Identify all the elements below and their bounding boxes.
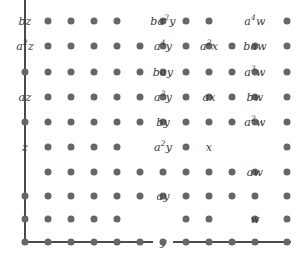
lattice-dot bbox=[91, 193, 98, 200]
lattice-dot bbox=[137, 119, 144, 126]
lattice-dot bbox=[114, 239, 121, 246]
lattice-dot bbox=[91, 239, 98, 246]
lattice-dot bbox=[45, 94, 52, 101]
lattice-point-label: baw bbox=[243, 41, 267, 52]
lattice-dot bbox=[22, 69, 29, 76]
lattice-dot bbox=[114, 94, 121, 101]
lattice-dot bbox=[22, 216, 29, 223]
lattice-point-label: bz bbox=[18, 16, 31, 27]
lattice-dot bbox=[68, 18, 75, 25]
lattice-dot bbox=[183, 216, 190, 223]
lattice-dot bbox=[183, 94, 190, 101]
lattice-dot bbox=[183, 169, 190, 176]
lattice-dot bbox=[22, 193, 29, 200]
lattice-dot bbox=[229, 43, 236, 50]
lattice-point-label: az bbox=[19, 92, 32, 103]
lattice-point-label: a3w bbox=[244, 67, 265, 78]
lattice-dot bbox=[137, 193, 144, 200]
lattice-dot bbox=[68, 216, 75, 223]
lattice-dot bbox=[45, 69, 52, 76]
lattice-dot bbox=[114, 69, 121, 76]
lattice-dot bbox=[91, 18, 98, 25]
lattice-dot bbox=[45, 216, 52, 223]
lattice-dot bbox=[91, 94, 98, 101]
lattice-dot bbox=[252, 193, 259, 200]
lattice-dot bbox=[206, 193, 213, 200]
lattice-dot bbox=[284, 43, 291, 50]
lattice-dot bbox=[284, 69, 291, 76]
lattice-point-label: a2w bbox=[244, 117, 265, 128]
lattice-dot bbox=[137, 239, 144, 246]
lattice-dot bbox=[229, 94, 236, 101]
lattice-dot bbox=[114, 18, 121, 25]
lattice-dot bbox=[68, 69, 75, 76]
lattice-point-label: z bbox=[22, 142, 28, 153]
lattice-dot bbox=[284, 239, 291, 246]
lattice-point-label: ay bbox=[156, 191, 169, 202]
lattice-dot bbox=[284, 119, 291, 126]
lattice-dot bbox=[229, 69, 236, 76]
lattice-point-label: aw bbox=[247, 167, 263, 178]
lattice-point-label: a2x bbox=[200, 41, 218, 52]
lattice-dot bbox=[183, 18, 190, 25]
lattice-dot bbox=[183, 144, 190, 151]
lattice-dot bbox=[229, 119, 236, 126]
lattice-dot bbox=[91, 144, 98, 151]
lattice-dot bbox=[114, 144, 121, 151]
lattice-dot bbox=[229, 239, 236, 246]
lattice-dot bbox=[183, 69, 190, 76]
lattice-dot bbox=[91, 69, 98, 76]
lattice-dot bbox=[137, 94, 144, 101]
lattice-point-label: ba2y bbox=[150, 16, 175, 27]
lattice-dot bbox=[91, 216, 98, 223]
lattice-dot bbox=[114, 193, 121, 200]
lattice-dot bbox=[45, 193, 52, 200]
lattice-point-label: w bbox=[250, 214, 260, 225]
lattice-dot bbox=[206, 169, 213, 176]
lattice-point-label: a2z bbox=[16, 41, 34, 52]
lattice-dot bbox=[45, 239, 52, 246]
lattice-dot bbox=[68, 239, 75, 246]
lattice-dot bbox=[252, 239, 259, 246]
lattice-dot bbox=[284, 144, 291, 151]
lattice-dot bbox=[45, 119, 52, 126]
lattice-dot bbox=[160, 239, 167, 246]
lattice-dot bbox=[91, 169, 98, 176]
lattice-dot bbox=[22, 119, 29, 126]
lattice-dot bbox=[206, 69, 213, 76]
lattice-point-label: ax bbox=[202, 92, 215, 103]
lattice-dot bbox=[206, 216, 213, 223]
lattice-point-label: a3y bbox=[154, 92, 172, 103]
lattice-dot bbox=[114, 43, 121, 50]
lattice-dot bbox=[284, 18, 291, 25]
lattice-dot bbox=[183, 119, 190, 126]
lattice-dot bbox=[284, 216, 291, 223]
lattice-dot bbox=[137, 43, 144, 50]
lattice-dot bbox=[183, 43, 190, 50]
lattice-point-label: a4y bbox=[154, 41, 172, 52]
lattice-point-label: by bbox=[156, 117, 170, 128]
lattice-dot bbox=[45, 144, 52, 151]
lattice-dot bbox=[22, 239, 29, 246]
lattice-dot bbox=[68, 193, 75, 200]
lattice-dot bbox=[68, 94, 75, 101]
lattice-dot bbox=[160, 169, 167, 176]
lattice-dot bbox=[206, 18, 213, 25]
lattice-dot bbox=[91, 119, 98, 126]
lattice-dot bbox=[91, 43, 98, 50]
lattice-diagram: y bza2zazzba2ya4ybaya3ybya2yaya2xaxxa4wb… bbox=[0, 0, 298, 262]
lattice-dot bbox=[206, 119, 213, 126]
lattice-dot bbox=[206, 239, 213, 246]
lattice-point-label: a2y bbox=[154, 142, 172, 153]
lattice-dot bbox=[284, 169, 291, 176]
lattice-dot bbox=[284, 94, 291, 101]
lattice-dot bbox=[284, 193, 291, 200]
lattice-point-label: x bbox=[206, 142, 212, 153]
lattice-dot bbox=[114, 216, 121, 223]
lattice-dot bbox=[229, 169, 236, 176]
lattice-dot bbox=[68, 43, 75, 50]
lattice-dot bbox=[229, 193, 236, 200]
lattice-dot bbox=[68, 144, 75, 151]
lattice-dot bbox=[137, 69, 144, 76]
lattice-dot bbox=[68, 119, 75, 126]
